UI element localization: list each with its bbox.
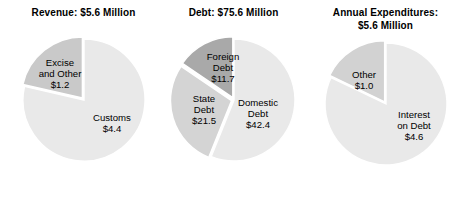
label-line: $42.4 [245,119,270,130]
pie-wrap-debt: DomesticDebt$42.4StateDebt$21.5ForeignDe… [156,36,311,164]
chart-title-revenue: Revenue: $5.6 Million [6,6,161,19]
chart-title-line1: Annual Expenditures: [333,7,438,18]
label-line: Customs [93,111,131,122]
pie-chart-2: Intereston Debt$4.6Other$1.0 [322,40,450,168]
label-line: $21.5 [191,115,215,126]
label-line: on Debt [397,120,431,131]
chart-title-line1: Revenue: $5.6 Million [32,7,136,18]
pie-slice-label-other: Other$1.0 [352,68,377,90]
chart-panel-annual-expenditures: Annual Expenditures: $5.6 Million Intere… [308,0,463,202]
chart-title-line2: $5.6 Million [308,19,463,32]
label-line: Other [352,68,377,79]
pie-wrap-revenue: Customs$4.4Exciseand Other$1.2 [6,36,161,164]
label-line: Debt [193,104,214,115]
label-line: and Other [38,68,81,79]
pie-wrap-annual-expenditures: Intereston Debt$4.6Other$1.0 [308,40,463,168]
label-line: Domestic [238,97,278,108]
label-line: Interest [398,109,430,120]
chart-panel-debt: Debt: $75.6 Million DomesticDebt$42.4Sta… [156,0,311,202]
chart-panel-revenue: Revenue: $5.6 Million Customs$4.4Excisea… [6,0,161,202]
label-line: Foreign [206,51,239,62]
pie-chart-0: Customs$4.4Exciseand Other$1.2 [20,36,148,164]
label-line: $4.6 [404,131,423,142]
label-line: $1.2 [50,79,69,90]
label-line: $11.7 [211,73,234,84]
chart-title-annual-expenditures: Annual Expenditures: $5.6 Million [308,6,463,32]
pie-slice-label-state-debt: StateDebt$21.5 [191,93,215,126]
label-line: Excise [45,57,73,68]
label-line: State [192,93,214,104]
pie-chart-figure: Revenue: $5.6 Million Customs$4.4Excisea… [0,0,467,202]
label-line: $4.4 [102,122,121,133]
label-line: Debt [247,108,268,119]
label-line: Debt [212,62,233,73]
chart-title-line1: Debt: $75.6 Million [189,7,279,18]
pie-chart-1: DomesticDebt$42.4StateDebt$21.5ForeignDe… [170,36,298,164]
chart-title-debt: Debt: $75.6 Million [156,6,311,19]
label-line: $1.0 [354,79,373,90]
